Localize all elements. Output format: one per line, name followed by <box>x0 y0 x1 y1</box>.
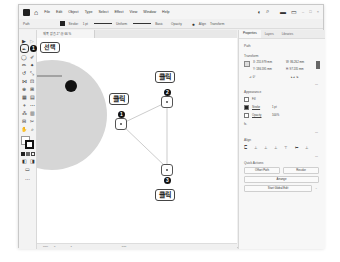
ellipse-tool-icon[interactable]: ◯ <box>21 54 27 60</box>
width-tool-icon[interactable]: ⋈ <box>21 78 27 84</box>
draw-behind-icon[interactable]: ◨ <box>29 158 35 164</box>
edit-toolbar-icon[interactable]: ⋯ <box>24 176 30 182</box>
stroke-weight-input[interactable]: 1 pt <box>83 22 88 26</box>
gradient-mode-icon[interactable] <box>26 152 30 156</box>
perspective-tool-icon[interactable]: ⊞ <box>29 86 35 92</box>
opacity-link[interactable]: Opacity <box>252 113 261 117</box>
free-transform-tool-icon[interactable]: ⊡ <box>29 78 35 84</box>
menu-object[interactable]: Object <box>68 10 78 14</box>
menu-type[interactable]: Type <box>85 10 93 14</box>
tab-layers[interactable]: Layers <box>261 31 278 38</box>
transform-button[interactable]: Transform <box>210 22 224 26</box>
blend-tool-icon[interactable]: ⋯ <box>29 102 35 108</box>
zoom-level[interactable]: 66% <box>43 245 48 248</box>
menu-help[interactable]: Help <box>162 10 169 14</box>
graph-tool-icon[interactable]: ▥ <box>29 110 35 116</box>
step-badge-2: 2 <box>164 89 171 96</box>
share-icon[interactable]: ▬ <box>280 9 286 15</box>
mesh-tool-icon[interactable]: ▦ <box>21 94 27 100</box>
symbol-sprayer-tool-icon[interactable]: ⁂ <box>21 110 27 116</box>
home-icon[interactable]: ⌂ <box>34 9 38 16</box>
profile-dropdown[interactable]: Uniform <box>116 22 127 26</box>
menu-file[interactable]: File <box>44 10 50 14</box>
close-button[interactable]: × <box>317 9 319 14</box>
opacity-icon <box>244 113 249 118</box>
none-mode-icon[interactable] <box>31 152 35 156</box>
step-badge-3: 3 <box>164 177 171 184</box>
triangle-path[interactable] <box>37 38 237 243</box>
global-edit-options-icon[interactable]: ⌄ <box>315 186 318 190</box>
brush-dropdown[interactable]: Basic <box>155 22 163 26</box>
anchor-point-2[interactable] <box>161 96 173 108</box>
scale-tool-icon[interactable]: ⤡ <box>29 70 35 76</box>
recolor-button[interactable]: Recolor <box>283 167 319 174</box>
shaper-tool-icon[interactable]: ✦ <box>29 62 35 68</box>
discover-icon[interactable]: ◐ <box>257 9 261 15</box>
opacity-input[interactable]: 100% <box>272 113 279 117</box>
style-dropdown[interactable]: Opacity <box>171 22 182 26</box>
direct-selection-tool-icon[interactable]: ▷ <box>29 38 35 44</box>
artboard-tool-icon[interactable]: ⊟ <box>21 118 27 124</box>
angle-input[interactable]: 0° <box>253 75 256 79</box>
flip-icons[interactable]: ▸◂ ⇅ <box>291 75 299 79</box>
anchor-point-3[interactable] <box>161 164 173 176</box>
status-bar: 66% 0° 1 Pen <box>37 243 237 249</box>
menu-window[interactable]: Window <box>143 10 156 14</box>
draw-normal-icon[interactable]: ◧ <box>21 158 27 164</box>
maximize-button[interactable]: □ <box>309 9 311 14</box>
rotation-value[interactable]: 0° <box>54 245 56 248</box>
width-input[interactable]: 86.262 mm <box>290 60 304 64</box>
zoom-tool-icon[interactable]: ⌕ <box>29 126 35 132</box>
appearance-more-icon[interactable]: ⋯ <box>315 130 318 134</box>
stroke-color-swatch[interactable] <box>60 21 65 26</box>
align-buttons-row[interactable]: ⊏ ⊥ ⊥ ⊥ ⊤ ⊢ ⊥ <box>244 145 311 150</box>
tab-libraries[interactable]: Libraries <box>278 31 298 38</box>
stroke-swatch-panel[interactable] <box>244 105 249 110</box>
align-more-icon[interactable]: ⋯ <box>315 154 318 158</box>
tab-properties[interactable]: Properties <box>239 30 261 38</box>
stroke-link[interactable]: Stroke <box>252 105 260 109</box>
menu-effect[interactable]: Effect <box>114 10 123 14</box>
appearance-heading: Appearance <box>244 90 261 94</box>
illustrator-window: ⌂ File Edit Object Type Select Effect Vi… <box>18 4 324 248</box>
screen-mode-icon[interactable]: ▭ <box>24 166 30 172</box>
hand-tool-icon[interactable]: ✋ <box>21 126 27 132</box>
start-global-edit-button[interactable]: Start Global Edit <box>244 185 312 192</box>
height-input[interactable]: 97.135 mm <box>290 67 304 71</box>
brush-line[interactable] <box>133 23 151 24</box>
globe-icon[interactable]: ● <box>192 21 195 27</box>
transform-more-icon[interactable]: ⋯ <box>315 82 318 86</box>
reference-point-icon[interactable] <box>244 61 250 67</box>
minimize-button[interactable]: – <box>302 9 304 14</box>
gradient-tool-icon[interactable]: ▤ <box>29 94 35 100</box>
artboard-canvas[interactable]: 1 클릭 2 클릭 3 클릭 <box>37 38 237 243</box>
search-icon[interactable]: ⌕ <box>266 8 269 15</box>
constrain-proportions-icon[interactable] <box>316 61 320 69</box>
fill-swatch-panel[interactable] <box>244 97 249 102</box>
eyedropper-tool-icon[interactable]: ⌖ <box>21 102 27 108</box>
transform-heading: Transform <box>244 54 258 58</box>
align-button[interactable]: Align <box>199 22 206 26</box>
workspace-icon[interactable]: ▭ <box>291 8 297 15</box>
fx-button[interactable]: fx. <box>244 122 247 126</box>
menu-select[interactable]: Select <box>98 10 108 14</box>
paintbrush-tool-icon[interactable]: ✐ <box>29 54 35 60</box>
variable-width-profile-line[interactable] <box>94 23 112 24</box>
offset-path-button[interactable]: Offset Path <box>244 167 280 174</box>
artboard-number[interactable]: 1 <box>70 245 71 248</box>
color-mode-icon[interactable] <box>21 152 25 156</box>
stroke-swatch[interactable] <box>25 140 34 149</box>
slice-tool-icon[interactable]: ✂ <box>29 118 35 124</box>
stroke-weight-panel-input[interactable]: 1 pt <box>272 105 277 109</box>
y-input[interactable]: 186.595 mm <box>256 67 272 71</box>
anchor-point-1[interactable] <box>115 118 127 130</box>
rotate-tool-icon[interactable]: ↺ <box>21 70 27 76</box>
shape-builder-tool-icon[interactable]: ⊕ <box>21 86 27 92</box>
menu-view[interactable]: View <box>130 10 138 14</box>
step-badge-select: 1 <box>30 45 37 52</box>
arrange-button[interactable]: Arrange <box>244 176 319 183</box>
menu-edit[interactable]: Edit <box>56 10 62 14</box>
document-tab[interactable]: 제목 없음-1* @ 66 % (CMYK/Preview) × <box>37 30 95 38</box>
pencil-tool-icon[interactable]: ✏ <box>21 62 27 68</box>
x-input[interactable]: 255.979 mm <box>256 60 272 64</box>
